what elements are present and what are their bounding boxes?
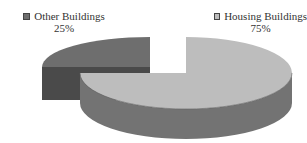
pie-chart: [0, 0, 307, 143]
